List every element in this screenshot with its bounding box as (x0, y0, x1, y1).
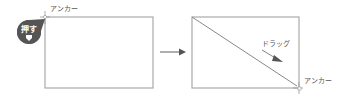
transition-arrow (160, 49, 186, 56)
left-frame (45, 17, 153, 88)
drag-diagonal (192, 17, 297, 86)
press-label: 押す (21, 24, 37, 34)
anchor-drag-diagram: アンカー 押す ドラッグ アンカー (0, 0, 345, 97)
drag-direction-arrow (262, 50, 283, 62)
drag-label: ドラッグ (262, 39, 290, 48)
right-panel: ドラッグ アンカー (192, 17, 332, 94)
press-badge: 押す (17, 19, 45, 44)
arrow-right-icon (179, 49, 186, 56)
anchor-label-start: アンカー (50, 5, 78, 13)
left-panel: アンカー 押す (17, 5, 153, 88)
arrow-down-right-icon (272, 55, 283, 62)
anchor-label-end: アンカー (304, 77, 332, 85)
